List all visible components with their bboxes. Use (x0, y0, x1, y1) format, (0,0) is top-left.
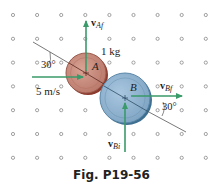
grid-dot (11, 61, 14, 64)
grid-dot (60, 13, 63, 16)
grid-dot (60, 132, 63, 135)
v-bf-label: vBf (160, 80, 174, 93)
disc-a-label: A (91, 60, 99, 72)
grid-dot (204, 132, 207, 135)
grid-dot (84, 156, 87, 159)
grid-dot (132, 61, 135, 64)
mass-label: 1 kg (101, 45, 121, 57)
grid-dot (132, 37, 135, 40)
v-af-label: vAf (91, 17, 105, 30)
grid-dot (204, 85, 207, 88)
grid-dot (84, 13, 87, 16)
grid-dot (60, 156, 63, 159)
disc-b: B (100, 73, 152, 125)
grid-dot (180, 132, 183, 135)
grid-dot (180, 13, 183, 16)
grid-dot (156, 109, 159, 112)
grid-dot (180, 37, 183, 40)
grid-dot (156, 85, 159, 88)
collision-diagram: A B 5 m/s 30° 1 kg vAf vBf 30° vBi (0, 0, 223, 191)
grid-dot (156, 13, 159, 16)
grid-dot (108, 13, 111, 16)
grid-dot (108, 156, 111, 159)
grid-dot (108, 132, 111, 135)
grid-dot (204, 37, 207, 40)
grid-dot (11, 156, 14, 159)
grid-dot (132, 13, 135, 16)
grid-dot (11, 37, 14, 40)
grid-dot (180, 85, 183, 88)
grid-dot (180, 61, 183, 64)
grid-dot (60, 61, 63, 64)
grid-dot (156, 37, 159, 40)
grid-dot (132, 132, 135, 135)
line-of-centers-b (147, 111, 186, 132)
grid-dot (36, 109, 39, 112)
angle-label-a: 30° (41, 59, 56, 70)
grid-dot (36, 61, 39, 64)
angle-label-b: 30° (162, 101, 177, 112)
grid-dot (11, 85, 14, 88)
grid-dot (180, 109, 183, 112)
v-bi-label: vBi (108, 138, 120, 151)
grid-dot (84, 132, 87, 135)
speed-label-5ms: 5 m/s (36, 85, 60, 97)
grid-dot (204, 61, 207, 64)
grid-dot (36, 13, 39, 16)
grid-dot (108, 37, 111, 40)
grid-dot (11, 132, 14, 135)
physics-figure: A B 5 m/s 30° 1 kg vAf vBf 30° vBi (0, 0, 223, 191)
grid-dot (204, 156, 207, 159)
grid-dot (180, 156, 183, 159)
grid-dot (36, 156, 39, 159)
grid-dot (36, 132, 39, 135)
grid-dot (11, 109, 14, 112)
grid-dot (60, 37, 63, 40)
grid-dot (204, 13, 207, 16)
grid-dot (36, 37, 39, 40)
grid-dot (84, 109, 87, 112)
grid-dot (156, 132, 159, 135)
grid-dot (156, 61, 159, 64)
grid-dot (108, 61, 111, 64)
grid-dot (60, 109, 63, 112)
disc-b-label: B (130, 81, 137, 93)
grid-dot (11, 13, 14, 16)
grid-dot (132, 156, 135, 159)
grid-dot (156, 156, 159, 159)
grid-dot (204, 109, 207, 112)
figure-caption: Fig. P19-56 (0, 168, 223, 182)
